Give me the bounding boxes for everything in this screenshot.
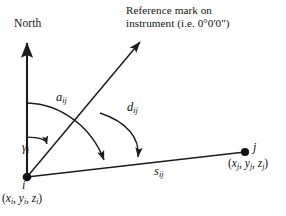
azimuth-label: aij xyxy=(56,90,67,105)
reference-mark-ray xyxy=(27,42,140,177)
azimuth-subscript: ij xyxy=(62,95,67,105)
station-i-label: i xyxy=(22,178,25,192)
paren-close: ) xyxy=(264,157,268,169)
paren-close: ) xyxy=(38,192,42,204)
north-label: North xyxy=(14,17,41,31)
distance-subscript: ij xyxy=(159,169,164,179)
station-i-coords: (xi, yi, zi) xyxy=(2,192,42,206)
gamma-arc xyxy=(27,137,47,144)
survey-angle-diagram: North Reference mark on instrument (i.e.… xyxy=(0,0,286,216)
distance-label: sij xyxy=(154,164,163,179)
reference-mark-caption: Reference mark on instrument (i.e. 0°0'0… xyxy=(126,4,230,30)
gamma-subscript: i xyxy=(27,146,29,155)
station-j-label: j xyxy=(253,140,256,154)
direction-arc xyxy=(100,113,138,157)
station-j-dot-icon xyxy=(241,148,249,156)
diagram-canvas xyxy=(0,0,286,216)
direction-label: dij xyxy=(127,100,138,115)
gamma-label: γi xyxy=(22,140,29,156)
direction-subscript: ij xyxy=(133,105,138,115)
station-j-coords: (xj, yj, zj) xyxy=(228,157,268,171)
baseline-i-to-j xyxy=(27,152,245,177)
reference-mark-caption-line1: Reference mark on xyxy=(126,4,212,16)
reference-mark-caption-line2: instrument (i.e. 0°0'0") xyxy=(126,17,230,30)
